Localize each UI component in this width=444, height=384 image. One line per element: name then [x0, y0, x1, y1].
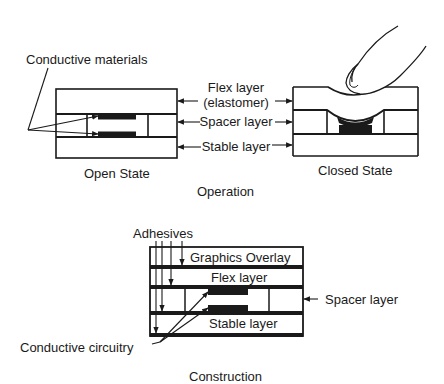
adhesive-under-overlay	[150, 265, 303, 269]
open-conductive-bottom	[98, 132, 136, 138]
construction-stable-layer-label: Stable layer	[209, 316, 278, 331]
adhesive-under-spacer	[150, 311, 303, 315]
flex-layer-label: Flex layer	[208, 80, 265, 95]
closed-conductive-bottom	[339, 125, 372, 134]
open-state-diagram	[56, 89, 177, 158]
construction-spacer-layer-label: Spacer layer	[325, 292, 399, 307]
stable-layer-label: Stable layer	[202, 139, 271, 154]
adhesives-label: Adhesives	[133, 226, 193, 241]
construction-conductive-top	[208, 289, 248, 295]
graphics-overlay-label: Graphics Overlay	[190, 250, 291, 265]
open-conductive-top	[98, 114, 136, 120]
adhesive-under-flex	[150, 285, 303, 289]
conductive-circuitry-label: Conductive circuitry	[20, 340, 134, 355]
open-outer-box	[56, 89, 177, 158]
construction-conductive-bottom	[208, 305, 248, 311]
closed-state-caption: Closed State	[318, 163, 392, 178]
spacer-layer-label: Spacer layer	[200, 114, 274, 129]
adhesive-bottom	[150, 333, 303, 337]
construction-flex-layer-label: Flex layer	[211, 270, 268, 285]
closed-state-diagram	[293, 87, 418, 156]
closed-flex-bottom-edge	[293, 110, 418, 121]
open-state-caption: Open State	[84, 166, 150, 181]
center-layer-labels: Flex layer (elastomer) Spacer layer Stab…	[200, 80, 274, 154]
membrane-switch-diagram: Conductive materials Open State Flex lay…	[0, 0, 444, 384]
flex-layer-sublabel: (elastomer)	[203, 95, 269, 110]
construction-caption: Construction	[189, 369, 262, 384]
operation-caption: Operation	[197, 184, 254, 199]
finger-icon	[346, 26, 426, 94]
conductive-materials-label: Conductive materials	[26, 52, 148, 67]
